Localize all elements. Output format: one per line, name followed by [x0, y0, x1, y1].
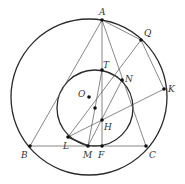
point-L-dot — [66, 135, 70, 139]
point-C-dot — [144, 144, 148, 148]
label-N: N — [124, 74, 134, 84]
point-N-dot — [120, 78, 124, 82]
label-B: B — [20, 150, 28, 160]
geometry-diagram: AQKTNOHLMFBC — [0, 0, 185, 184]
label-M: M — [82, 150, 93, 160]
point-B-dot — [28, 144, 32, 148]
point-Q-dot — [139, 38, 143, 42]
label-L: L — [62, 141, 69, 151]
segments — [30, 20, 164, 146]
point-center-dot — [93, 106, 97, 110]
point-K-dot — [162, 87, 166, 91]
point-F-dot — [100, 144, 104, 148]
label-C: C — [149, 150, 156, 160]
label-A: A — [98, 7, 106, 17]
segment-NM — [88, 80, 122, 146]
segment-LM — [68, 137, 88, 146]
point-A-dot — [100, 18, 104, 22]
point-labels: AQKTNOHLMFBC — [20, 7, 176, 160]
point-M-dot — [86, 144, 90, 148]
label-H: H — [103, 122, 112, 132]
label-K: K — [167, 84, 176, 94]
point-O-dot — [87, 95, 91, 99]
label-O: O — [78, 89, 86, 99]
label-T: T — [103, 60, 110, 70]
label-F: F — [97, 150, 105, 160]
label-Q: Q — [144, 28, 152, 38]
